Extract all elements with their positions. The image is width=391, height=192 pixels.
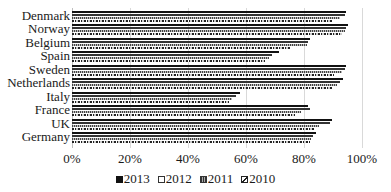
bar-netherlands-2010 bbox=[72, 87, 332, 89]
legend-item-2011: 2011 bbox=[200, 172, 234, 186]
legend-item-2012: 2012 bbox=[158, 172, 192, 186]
legend-item-2013: 2013 bbox=[116, 172, 150, 186]
x-tick-label: 20% bbox=[118, 152, 142, 166]
legend: 2013 2012 2011 2010 bbox=[0, 172, 391, 186]
bar-italy-2010 bbox=[72, 101, 229, 103]
category-label: Germany bbox=[22, 130, 70, 143]
legend-label: 2011 bbox=[208, 172, 234, 186]
diagonal-hatch-swatch-icon bbox=[241, 176, 248, 183]
category-label: France bbox=[35, 103, 70, 116]
bar-chart: Denmark Norway Belgium Spain Sweden Neth… bbox=[0, 0, 391, 192]
x-tick-label: 60% bbox=[234, 152, 258, 166]
legend-label: 2010 bbox=[249, 172, 275, 186]
x-tick-label: 80% bbox=[292, 152, 316, 166]
category-label: Spain bbox=[40, 49, 70, 62]
bar-germany-2010 bbox=[72, 141, 310, 143]
solid-black-swatch-icon bbox=[116, 176, 123, 183]
gridline-100 bbox=[362, 8, 363, 148]
legend-label: 2013 bbox=[124, 172, 150, 186]
bar-belgium-2010 bbox=[72, 47, 290, 49]
vertical-hatch-swatch-icon bbox=[200, 176, 207, 183]
category-label: Netherlands bbox=[7, 76, 70, 89]
x-tick-label: 100% bbox=[347, 152, 377, 166]
x-tick-label: 0% bbox=[63, 152, 80, 166]
x-tick-label: 40% bbox=[176, 152, 200, 166]
legend-item-2010: 2010 bbox=[241, 172, 275, 186]
bar-sweden-2010 bbox=[72, 74, 334, 76]
category-label: Norway bbox=[28, 22, 70, 35]
white-outline-swatch-icon bbox=[158, 176, 165, 183]
legend-label: 2012 bbox=[166, 172, 192, 186]
bar-denmark-2010 bbox=[72, 20, 333, 22]
bar-uk-2010 bbox=[72, 128, 314, 130]
bar-spain-2010 bbox=[72, 60, 265, 62]
bar-norway-2010 bbox=[72, 33, 342, 35]
bar-france-2010 bbox=[72, 114, 295, 116]
